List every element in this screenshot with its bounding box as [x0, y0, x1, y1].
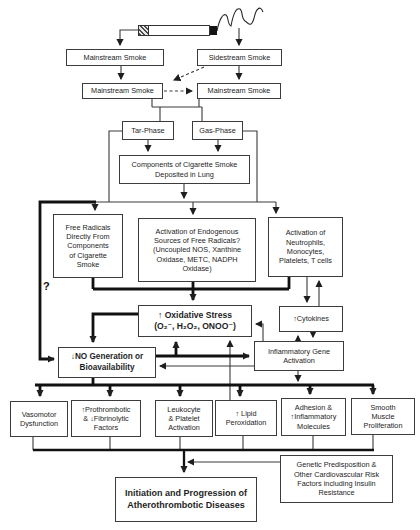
node-cytokines: ↑Cytokines	[279, 306, 343, 332]
node-neutrophil-activation: Activation of Neutrophils, Monocytes, Pl…	[268, 217, 343, 277]
node-gas-phase: Gas-Phase	[192, 121, 243, 140]
node-smooth-muscle-proliferation: Smooth Muscle Proliferation	[351, 398, 415, 435]
node-endogenous-sources: Activation of Endogenous Sources of Free…	[138, 218, 256, 282]
smoke-squiggle-icon	[217, 8, 263, 31]
node-genetic-predisposition: Genetic Predisposition & Other Cardiovas…	[280, 455, 393, 503]
node-adhesion-molecules: Adhesion & ↑Inflammatory Molecules	[281, 398, 346, 436]
uncertainty-question-mark: ?	[43, 280, 50, 292]
node-components-deposited: Components of Cigarette Smoke Deposited …	[119, 155, 250, 184]
node-prothrombotic-fibrinolytic: ↑Prothrombotic & ↓Fibrinolytic Factors	[71, 400, 141, 437]
node-inflammatory-gene-activation: Inflammatory Gene Activation	[254, 341, 344, 371]
node-free-radicals: Free Radicals Directly From Components o…	[53, 214, 123, 278]
node-initiation-atherothrombotic: Initiation and Progression of Atherothro…	[115, 477, 257, 522]
node-mainstream-smoke-3: Mainstream Smoke	[197, 83, 281, 99]
node-oxidative-stress: ↑ Oxidative Stress (O₂⁻, H₂O₂, ONOO⁻)	[138, 305, 252, 337]
node-no-generation: ↓NO Generation or Bioavailability	[58, 347, 156, 378]
node-leukocyte-platelet-activation: Leukocyte & Platelet Activation	[155, 400, 213, 437]
node-vasomotor-dysfunction: Vasomotor Dysfunction	[10, 401, 68, 437]
node-mainstream-smoke-1: Mainstream Smoke	[66, 49, 164, 66]
node-mainstream-smoke-2: Mainstream Smoke	[82, 83, 163, 99]
cigarette-body-icon	[148, 25, 210, 36]
node-tar-phase: Tar-Phase	[122, 121, 174, 140]
node-sidestream-smoke: Sidestream Smoke	[197, 49, 282, 66]
cigarette-lit-tip-icon	[210, 26, 217, 35]
flowchart-canvas: Mainstream Smoke Sidestream Smoke Mainst…	[0, 0, 420, 530]
node-lipid-peroxidation: ↑ Lipid Peroxidation	[215, 400, 277, 436]
